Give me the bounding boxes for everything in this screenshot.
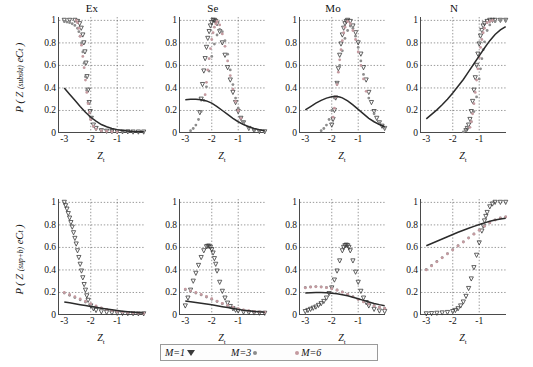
plotarea-se-top [180,17,265,132]
y-tick-label: 0.8 [285,220,297,229]
figure-panel-grid: P ( Z (subskt) eCt ) Ex 00.20.40.60.81-3… [0,0,533,367]
plotarea-mo-bottom [300,199,385,314]
marker-dot [336,289,339,292]
marker-dot [451,249,454,252]
plotbox-ex-top: 00.20.40.60.81-3-2-1 [58,17,144,133]
y-tick-label: 0.6 [285,61,297,70]
marker-triangle-down [348,249,352,253]
marker-dot [80,44,83,47]
panel-ex-bottom: 00.20.40.60.81-3-2-1 Zt [36,186,148,346]
marker-triangle-down [339,42,343,46]
y-tick-label: 0.2 [165,288,177,297]
plotarea-se-bottom [180,199,265,314]
y-tick-label: 0 [51,129,56,138]
marker-dot [189,129,192,132]
y-tick-label: 0.8 [406,38,418,47]
marker-dot [325,124,328,127]
marker-triangle-down [372,307,376,311]
marker-triangle-down [223,296,227,300]
marker-triangle-down [85,294,89,298]
marker-dot [221,32,224,35]
marker-dot [234,100,237,103]
plotarea-n-top [421,17,506,132]
legend-label-m1: M=1 [165,347,185,358]
marker-dot [475,79,478,82]
marker-dot [473,233,476,236]
marker-dot [221,302,224,305]
marker-dot [378,306,381,309]
marker-triangle-down [226,66,230,70]
marker-dot [457,245,460,248]
legend-label-m6: M=6 [301,347,321,358]
marker-dot [111,130,114,133]
y-tick-label: 0.2 [406,106,418,115]
marker-dot [194,124,197,127]
marker-dot [341,39,344,42]
y-tick-label: 0.2 [406,288,418,297]
x-tick-label: -2 [87,316,95,326]
marker-dot [476,67,479,70]
panel-n-top: N 00.20.40.60.81-3-2-1 Zt [398,4,510,164]
marker-triangle-down [338,53,342,57]
marker-triangle-down [504,200,508,204]
plotarea-mo-top [300,17,385,132]
marker-dot [474,91,477,94]
marker-dot [89,302,92,305]
marker-triangle-down [215,269,219,273]
marker-dot [341,291,344,294]
marker-dot [239,117,242,120]
marker-triangle-down [75,249,79,253]
y-tick-label: 0.4 [406,265,418,274]
x-tick-label: -1 [113,316,121,326]
chart-svg [300,17,386,133]
y-tick-label: 0.8 [44,38,56,47]
y-tick-label: 0.6 [44,61,56,70]
plot-row-bottom: P ( Z (sup+b) eCt ) 00.20.40.60.81-3-2-1… [0,186,533,346]
marker-triangle-down [212,257,216,261]
y-tick-label: 0.2 [44,288,56,297]
y-tick-label: 0.2 [285,288,297,297]
plotbox-n-bottom: 00.20.40.60.81-3-2-1 [420,199,506,315]
y-axis-label-bottom: P ( Z (sup+b) eCt ) [14,205,25,315]
panel-title-mo-top: Mo [277,2,389,14]
marker-dot [83,66,86,69]
marker-dot [77,27,80,30]
marker-dot [226,304,229,307]
plotbox-ex-bottom: 00.20.40.60.81-3-2-1 [58,199,144,315]
marker-triangle-down [218,280,222,284]
marker-triangle-down [199,255,203,259]
marker-dot [184,288,187,291]
marker-triangle-down [359,52,363,56]
marker-triangle-down [194,271,198,275]
marker-dot [84,300,87,303]
triangle-down-icon [187,350,195,356]
chart-svg [180,17,266,133]
y-tick-label: 0 [172,311,177,320]
x-tick-label: -2 [328,134,336,144]
dot-icon-m3 [253,351,257,355]
marker-triangle-down [353,270,357,274]
marker-dot [338,64,341,67]
marker-dot [63,20,66,23]
marker-dot [87,102,90,105]
x-tick-label: -1 [234,134,242,144]
marker-dot [205,81,208,84]
marker-triangle-down [65,207,69,211]
marker-triangle-down [196,263,200,267]
marker-dot [479,46,482,49]
marker-dot [210,55,213,58]
marker-triangle-down [477,42,481,46]
y-tick-label: 0.2 [44,106,56,115]
marker-dot [357,46,360,49]
marker-triangle-down [464,294,468,298]
plotarea-ex-bottom [59,199,144,314]
y-tick-label: 1 [172,198,177,207]
y-tick-label: 0.4 [165,83,177,92]
y-tick-label: 0.4 [165,265,177,274]
chart-svg [59,17,145,133]
x-tick-label: -3 [301,316,309,326]
x-axis-label-ex-bottom: Zt [58,332,144,346]
marker-dot [478,229,481,232]
marker-dot [200,110,203,113]
marker-triangle-down [231,90,235,94]
